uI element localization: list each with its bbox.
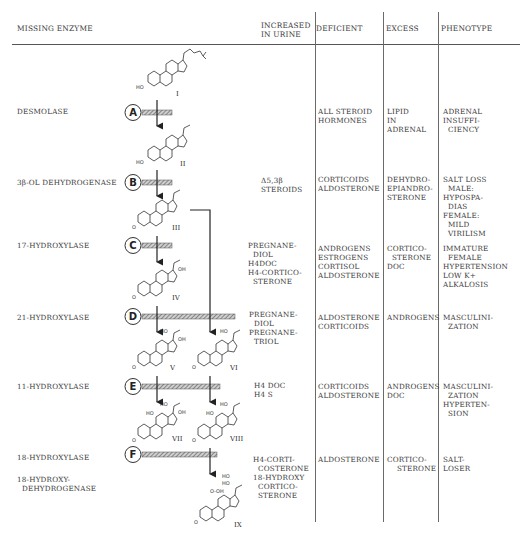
svg-text:HO: HO xyxy=(160,328,168,334)
compound-label-III: III xyxy=(172,224,181,232)
block-E: E xyxy=(125,379,220,395)
svg-text:HO: HO xyxy=(146,410,154,416)
compound-label-VII: VII xyxy=(171,435,183,443)
svg-text:A: A xyxy=(129,107,137,118)
svg-text:HO: HO xyxy=(136,159,144,165)
svg-text:O: O xyxy=(132,437,136,443)
svg-text:OH: OH xyxy=(178,409,186,415)
svg-text:HO: HO xyxy=(160,401,168,407)
compound-label-I: I xyxy=(176,90,179,98)
compound-label-VIII: VIII xyxy=(229,435,244,443)
svg-text:HO: HO xyxy=(222,473,230,479)
svg-text:B: B xyxy=(129,177,137,188)
svg-text:O: O xyxy=(192,364,196,370)
block-B: B xyxy=(125,175,172,191)
svg-text:OH: OH xyxy=(178,336,186,342)
compound-label-VI: VI xyxy=(229,364,238,372)
svg-text:O: O xyxy=(132,224,136,230)
block-D: D xyxy=(125,309,235,325)
svg-text:HO: HO xyxy=(222,480,230,486)
svg-text:O: O xyxy=(132,294,136,300)
svg-text:HO: HO xyxy=(136,84,144,90)
compound-V-structure: OH HO O xyxy=(132,328,186,370)
svg-text:O: O xyxy=(192,437,196,443)
svg-text:HO: HO xyxy=(220,328,228,334)
compound-label-V: V xyxy=(169,364,176,372)
svg-text:O-OH: O-OH xyxy=(210,488,224,494)
compound-II-structure: HO xyxy=(136,125,190,165)
compound-label-IX: IX xyxy=(234,521,242,529)
svg-text:HO: HO xyxy=(220,401,228,407)
steroid-pathway-diagram: HO I HO II O III OH O IV OH HO O V HO O … xyxy=(0,0,532,538)
compound-IX-structure: HO HO O-OH O xyxy=(194,473,242,525)
block-A: A xyxy=(125,105,172,121)
svg-text:O: O xyxy=(194,519,198,525)
compound-label-IV: IV xyxy=(172,294,181,302)
pathway-arrows xyxy=(157,100,210,474)
compound-label-II: II xyxy=(180,160,186,168)
svg-text:E: E xyxy=(130,381,137,392)
compound-I-structure: HO xyxy=(136,49,206,90)
svg-text:O: O xyxy=(132,364,136,370)
svg-text:F: F xyxy=(130,449,137,460)
svg-text:D: D xyxy=(129,311,137,322)
block-F: F xyxy=(125,447,217,463)
block-C: C xyxy=(125,238,172,254)
svg-text:HO: HO xyxy=(206,410,214,416)
svg-text:OH: OH xyxy=(178,266,186,272)
svg-text:C: C xyxy=(129,240,136,251)
